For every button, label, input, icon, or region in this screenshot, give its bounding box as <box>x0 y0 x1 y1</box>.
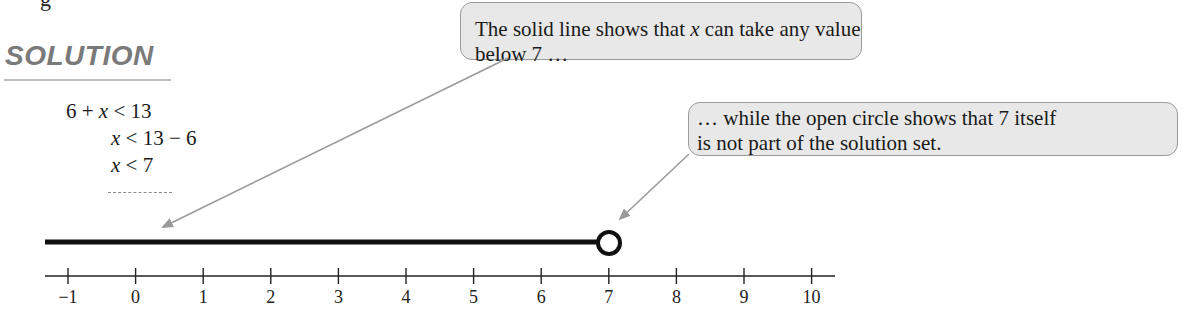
tick-label: 6 <box>537 287 546 307</box>
tick-label: 8 <box>672 287 681 307</box>
tick-label: 10 <box>803 287 821 307</box>
tick-label: 9 <box>740 287 749 307</box>
tick-label: 3 <box>334 287 343 307</box>
tick-label: 0 <box>131 287 140 307</box>
number-line-figure: −1012345678910 <box>0 0 1188 324</box>
tick-label: −1 <box>58 287 77 307</box>
tick-label: 2 <box>266 287 275 307</box>
tick-label: 5 <box>469 287 478 307</box>
callout2-arrow <box>620 154 689 219</box>
open-circle-endpoint <box>598 232 620 254</box>
tick-label: 1 <box>199 287 208 307</box>
tick-label: 4 <box>402 287 411 307</box>
axis-ticks: −1012345678910 <box>58 268 820 307</box>
callout1-arrow <box>163 58 508 227</box>
tick-label: 7 <box>604 287 613 307</box>
